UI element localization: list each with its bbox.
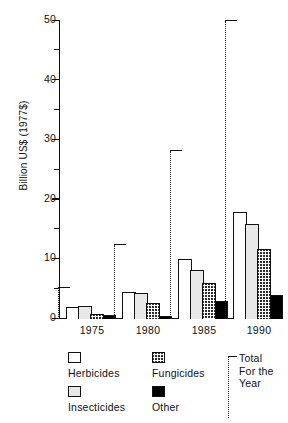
x-axis-label-1990: 1990 xyxy=(229,324,288,336)
y-tick-label-10: 10 xyxy=(16,252,56,263)
legend-total-for-the-year: Total For the Year xyxy=(228,352,288,418)
hatched-square-icon xyxy=(152,352,165,363)
total-stem-1990 xyxy=(225,21,226,319)
legend-total-line3: Year xyxy=(239,377,274,390)
legend-entry-fungicides[interactable]: Fungicides xyxy=(152,352,205,379)
total-stem-1985 xyxy=(170,151,171,319)
y-tick-label-30: 30 xyxy=(16,133,56,144)
legend-label-other: Other xyxy=(152,401,179,413)
x-axis-label-1980: 1980 xyxy=(118,324,178,336)
total-bracket-cap-icon xyxy=(228,356,237,357)
x-axis-label-1975: 1975 xyxy=(62,324,122,336)
legend-entry-herbicides[interactable]: Herbicides xyxy=(68,352,120,379)
chart-legend: HerbicidesInsecticidesFungicidesOther To… xyxy=(0,352,288,423)
pesticide-sales-chart: Billion US$ (1977$) 01020304050 19751980… xyxy=(0,0,288,423)
legend-total-label: Total For the Year xyxy=(239,352,274,390)
legend-label-herbicides: Herbicides xyxy=(68,367,120,379)
legend-label-fungicides: Fungicides xyxy=(152,367,205,379)
legend-label-insecticides: Insecticides xyxy=(68,401,125,413)
bar-other-1990 xyxy=(270,295,284,319)
legend-entry-other[interactable]: Other xyxy=(152,386,179,413)
x-axis-label-1985: 1985 xyxy=(174,324,234,336)
y-axis-line xyxy=(59,20,60,319)
plot-area: Billion US$ (1977$) 01020304050 19751980… xyxy=(0,0,288,345)
legend-total-line1: Total xyxy=(239,352,274,365)
gray-square-icon xyxy=(68,386,81,397)
bar-other-1985 xyxy=(215,301,229,319)
total-bracket-stem-icon xyxy=(228,356,229,418)
open-square-icon xyxy=(68,352,81,363)
legend-total-line2: For the xyxy=(239,365,274,378)
y-tick-label-0: 0 xyxy=(16,312,56,323)
y-tick-label-40: 40 xyxy=(16,74,56,85)
total-stem-1980 xyxy=(114,245,115,319)
y-tick-label-50: 50 xyxy=(16,14,56,25)
black-square-icon xyxy=(152,386,165,397)
y-tick-label-20: 20 xyxy=(16,193,56,204)
total-stem-1975 xyxy=(58,288,59,319)
legend-entry-insecticides[interactable]: Insecticides xyxy=(68,386,125,413)
